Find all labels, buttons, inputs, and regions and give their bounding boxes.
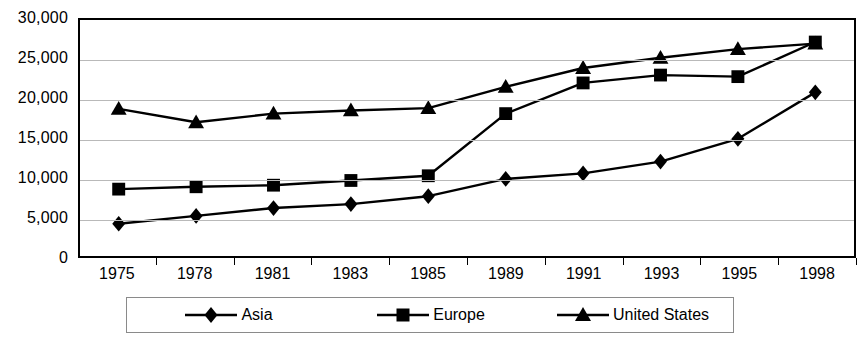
x-tick	[156, 258, 157, 265]
legend-entry-europe[interactable]: Europe	[329, 306, 531, 324]
triangle-marker-icon	[555, 306, 611, 324]
y-tick-label: 20,000	[18, 89, 68, 107]
legend-label: Asia	[241, 307, 272, 323]
diamond-marker-icon	[577, 166, 590, 182]
x-tick-label: 1998	[799, 265, 835, 283]
diamond-marker-icon	[654, 154, 667, 170]
y-tick-label: 30,000	[18, 9, 68, 27]
x-tick	[389, 258, 390, 265]
legend-label: United States	[613, 307, 709, 323]
y-tick-label: 15,000	[18, 129, 68, 147]
diamond-marker-icon	[422, 188, 435, 204]
diamond-marker-icon	[205, 307, 218, 323]
x-tick	[700, 258, 701, 265]
x-tick-label: 1975	[99, 265, 135, 283]
y-tick-label: 10,000	[18, 169, 68, 187]
series-line	[119, 92, 816, 223]
diamond-marker-icon	[731, 131, 744, 147]
y-tick-label: 5,000	[27, 209, 68, 227]
x-tick	[545, 258, 546, 265]
diamond-marker-icon	[344, 196, 357, 212]
x-tick	[778, 258, 779, 265]
legend-entry-asia[interactable]: Asia	[127, 306, 329, 324]
series-line	[119, 42, 816, 189]
x-tick-label: 1981	[255, 265, 291, 283]
line-chart: 05,00010,00015,00020,00025,00030,000 197…	[0, 0, 862, 342]
legend-entry-united-states[interactable]: United States	[531, 306, 733, 324]
gridline	[80, 100, 854, 101]
chart-legend: AsiaEuropeUnited States	[126, 297, 734, 333]
x-axis-ticks	[78, 258, 856, 265]
gridline	[80, 180, 854, 181]
series-line	[119, 44, 816, 123]
y-axis: 05,00010,00015,00020,00025,00030,000	[0, 0, 74, 342]
square-marker-icon	[190, 180, 203, 193]
x-tick	[623, 258, 624, 265]
y-tick-label: 25,000	[18, 49, 68, 67]
x-tick-label: 1993	[644, 265, 680, 283]
diamond-marker-icon	[499, 171, 512, 187]
x-tick	[311, 258, 312, 265]
gridline	[80, 140, 854, 141]
legend-label: Europe	[433, 307, 485, 323]
diamond-marker-icon	[267, 200, 280, 216]
diamond-marker-icon	[183, 306, 239, 324]
x-tick-label: 1989	[488, 265, 524, 283]
square-marker-icon	[112, 183, 125, 196]
x-tick-label: 1991	[566, 265, 602, 283]
gridline	[80, 60, 854, 61]
diamond-marker-icon	[112, 216, 125, 232]
diamond-marker-icon	[809, 85, 822, 101]
square-marker-icon	[499, 107, 512, 120]
x-tick-label: 1978	[177, 265, 213, 283]
x-tick	[467, 258, 468, 265]
y-tick-label: 0	[59, 249, 68, 267]
x-tick-label: 1995	[722, 265, 758, 283]
series-united-states	[111, 36, 824, 128]
diamond-marker-icon	[190, 208, 203, 224]
square-marker-icon	[375, 306, 431, 324]
plot-area	[78, 18, 856, 258]
series-asia	[112, 85, 822, 232]
x-tick	[856, 258, 857, 265]
square-marker-icon	[577, 77, 590, 90]
square-marker-icon	[654, 69, 667, 82]
square-marker-icon	[397, 309, 410, 322]
x-axis: 1975197819811983198519891991199319951998	[78, 265, 856, 289]
x-tick	[234, 258, 235, 265]
gridline	[80, 220, 854, 221]
triangle-marker-icon	[111, 101, 127, 115]
square-marker-icon	[731, 70, 744, 83]
x-tick-label: 1985	[410, 265, 446, 283]
x-tick-label: 1983	[333, 265, 369, 283]
